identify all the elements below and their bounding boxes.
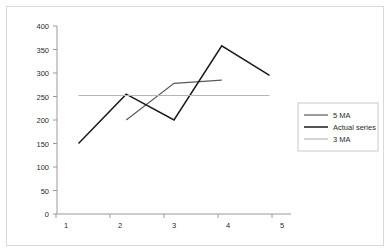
legend-label: 3 MA	[333, 135, 351, 144]
x-tick-label: 3	[172, 221, 176, 230]
series-layer	[78, 46, 269, 144]
x-tick-marks	[56, 214, 272, 218]
x-tick-label: 4	[226, 221, 230, 230]
x-tick-label: 5	[280, 221, 284, 230]
y-tick-label: 200	[36, 116, 49, 125]
series-line	[126, 80, 222, 120]
y-tick-marks	[53, 26, 57, 214]
y-tick-label: 0	[45, 210, 49, 219]
y-tick-label: 100	[36, 163, 49, 172]
line-chart: 400 350 300 250 200 150 100 50 0 1 2 3 4…	[7, 7, 385, 247]
legend-label: 5 MA	[333, 111, 351, 120]
legend-entry-actual-series[interactable]: Actual series	[304, 123, 376, 132]
legend-entry-3ma[interactable]: 3 MA	[304, 135, 351, 144]
y-tick-label: 250	[36, 93, 49, 102]
y-tick-label: 300	[36, 69, 49, 78]
chart-legend: 5 MA Actual series 3 MA	[298, 103, 378, 151]
y-axis-tick-labels: 400 350 300 250 200 150 100 50 0	[36, 22, 49, 219]
series-line	[78, 46, 269, 144]
x-tick-label: 1	[64, 221, 68, 230]
y-tick-label: 150	[36, 140, 49, 149]
x-tick-label: 2	[118, 221, 122, 230]
y-tick-label: 400	[36, 22, 49, 31]
x-axis-tick-labels: 1 2 3 4 5	[64, 221, 284, 230]
chart-frame: 400 350 300 250 200 150 100 50 0 1 2 3 4…	[6, 6, 384, 246]
y-tick-label: 50	[41, 187, 49, 196]
legend-entry-5ma[interactable]: 5 MA	[304, 111, 351, 120]
legend-label: Actual series	[333, 123, 376, 132]
y-tick-label: 350	[36, 46, 49, 55]
